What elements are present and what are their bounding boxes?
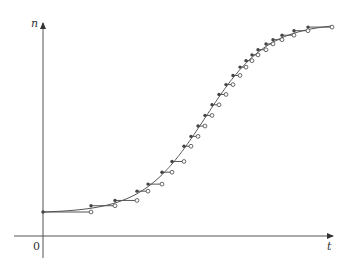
open-dot <box>217 103 221 107</box>
filled-dot <box>203 114 206 117</box>
open-dot <box>250 59 254 63</box>
open-dot <box>160 182 164 186</box>
open-dot <box>280 38 284 42</box>
filled-dot <box>210 103 213 106</box>
open-dot <box>196 134 200 138</box>
open-dot <box>189 144 193 148</box>
open-dot <box>244 65 248 69</box>
filled-dot <box>41 210 44 213</box>
open-dot <box>271 42 275 46</box>
open-dot <box>238 74 242 78</box>
filled-dot <box>231 74 234 77</box>
open-dot <box>231 83 235 87</box>
open-dot <box>89 210 93 214</box>
filled-dot <box>271 38 274 41</box>
open-dot <box>135 199 139 203</box>
open-dot <box>113 204 117 208</box>
filled-dot <box>135 189 138 192</box>
step-function <box>41 25 334 214</box>
filled-dot <box>264 42 267 45</box>
filled-dot <box>170 160 173 163</box>
filled-dot <box>238 65 241 68</box>
open-dot <box>210 114 214 118</box>
logistic-curve <box>43 26 332 212</box>
open-dot <box>224 93 228 97</box>
y-axis-label: n <box>31 17 38 30</box>
x-axis-label: t <box>327 240 332 253</box>
origin-label: 0 <box>33 240 40 253</box>
open-dot <box>170 170 174 174</box>
filled-dot <box>217 93 220 96</box>
open-dot <box>256 53 260 57</box>
filled-dot <box>146 182 149 185</box>
filled-dot <box>113 199 116 202</box>
filled-dot <box>182 145 185 148</box>
open-dot <box>203 124 207 128</box>
filled-dot <box>306 25 309 28</box>
filled-dot <box>280 34 283 37</box>
filled-dot <box>196 124 199 127</box>
filled-dot <box>250 53 253 56</box>
open-dot <box>182 160 186 164</box>
filled-dot <box>224 83 227 86</box>
open-dot <box>330 25 334 29</box>
open-dot <box>306 29 310 33</box>
logistic-step-diagram: n t 0 <box>0 0 346 274</box>
open-dot <box>146 189 150 193</box>
filled-dot <box>256 48 259 51</box>
filled-dot <box>160 170 163 173</box>
filled-dot <box>189 135 192 138</box>
filled-dot <box>292 29 295 32</box>
open-dot <box>292 33 296 37</box>
open-dot <box>264 48 268 52</box>
filled-dot <box>244 59 247 62</box>
filled-dot <box>89 204 92 207</box>
